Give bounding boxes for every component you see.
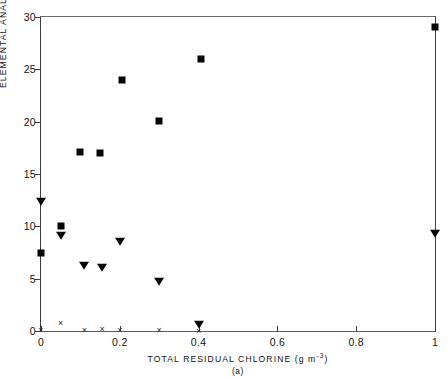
y-axis-title: ELEMENTAL ANALYSES (0, 0, 8, 88)
data-point-square (197, 55, 204, 62)
y-axis-tick-label: 0 (30, 325, 36, 337)
data-point-triangle-down (97, 264, 107, 272)
data-point-square (118, 76, 125, 83)
y-axis-tick-label: 25 (24, 63, 36, 75)
x-axis-title: TOTAL RESIDUAL CHLORINE (g m-3) (40, 352, 436, 364)
data-point-triangle-down (56, 232, 66, 240)
data-point-square (57, 223, 64, 230)
data-point-square (38, 249, 45, 256)
x-axis-tick-label: 0.6 (270, 336, 286, 348)
data-point-triangle-down (79, 262, 89, 270)
plot-area: 05101520253000.20.40.60.81 (40, 16, 436, 332)
data-point-x (57, 319, 64, 326)
data-point-square (156, 117, 163, 124)
data-point-triangle-down (154, 278, 164, 286)
data-point-x (99, 325, 106, 332)
data-point-x (195, 328, 202, 335)
x-axis-tick-label: 0.4 (191, 336, 207, 348)
data-point-triangle-down (36, 198, 46, 206)
data-point-triangle-down (430, 229, 440, 237)
x-axis-tick-label: 0.8 (348, 336, 364, 348)
x-axis-tick-label: 0 (38, 336, 44, 348)
y-axis-tick-label: 30 (24, 11, 36, 23)
y-axis-tick-label: 5 (30, 273, 36, 285)
figure-panel-a: 05101520253000.20.40.60.81 ELEMENTAL ANA… (0, 0, 448, 378)
data-point-x (116, 327, 123, 334)
y-axis-tick-label: 15 (24, 168, 36, 180)
x-axis-tick-label: 1 (432, 336, 438, 348)
data-point-square (97, 150, 104, 157)
data-point-triangle-down (115, 238, 125, 246)
data-point-square (432, 24, 439, 31)
y-axis-tick-label: 20 (24, 116, 36, 128)
x-axis-title-text: TOTAL RESIDUAL CHLORINE (g m (148, 354, 317, 364)
y-axis-tick-label: 10 (24, 220, 36, 232)
data-point-square (77, 149, 84, 156)
data-point-x (81, 327, 88, 334)
panel-label: (a) (40, 366, 436, 376)
data-point-x (38, 326, 45, 333)
data-point-x (156, 327, 163, 334)
x-axis-title-suffix: ) (324, 354, 328, 364)
x-axis-tick (277, 326, 278, 331)
y-axis-title-text: ELEMENTAL ANALYSES (0, 0, 8, 88)
x-axis-tick (356, 326, 357, 331)
x-axis-tick (435, 326, 436, 331)
x-axis-tick-label: 0.2 (112, 336, 128, 348)
